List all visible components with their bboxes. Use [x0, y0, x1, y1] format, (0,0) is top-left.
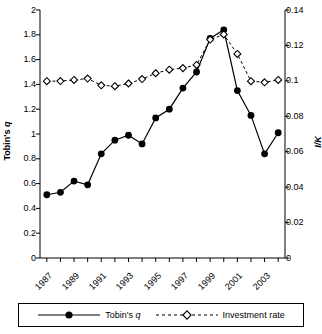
data-point: [125, 80, 132, 87]
data-point: [43, 191, 50, 198]
data-point: [248, 112, 255, 119]
data-point: [247, 78, 254, 85]
data-point: [57, 78, 64, 85]
data-point: [125, 132, 132, 139]
data-point: [166, 66, 173, 73]
legend-label-investment-rate: Investment rate: [223, 310, 285, 320]
data-point: [261, 150, 268, 157]
data-point: [234, 50, 241, 57]
data-point: [84, 181, 91, 188]
data-point: [139, 76, 146, 83]
data-point: [275, 129, 282, 136]
data-point: [179, 65, 186, 72]
data-point: [71, 76, 78, 83]
plot-area: [0, 0, 322, 334]
data-point: [275, 76, 282, 83]
data-point: [166, 106, 173, 113]
data-point: [180, 85, 187, 92]
chart-legend: Tobin's q Investment rate: [18, 303, 304, 327]
data-point: [193, 69, 200, 76]
data-point: [111, 137, 118, 144]
data-point: [43, 78, 50, 85]
data-point: [261, 79, 268, 86]
data-point: [84, 75, 91, 82]
series-line-investment-rate: [47, 34, 278, 86]
chart-figure: Tobin's q I/K 00.20.40.60.811.21.41.61.8…: [0, 0, 322, 334]
legend-item-investment-rate: Investment rate: [155, 309, 285, 321]
data-point: [234, 87, 241, 94]
data-point: [71, 178, 78, 185]
legend-marker-open-diamond: [155, 309, 219, 321]
legend-item-tobins-q: Tobin's q: [37, 309, 140, 321]
data-point: [152, 70, 159, 77]
legend-marker-filled-circle: [37, 309, 101, 321]
series-line-tobins-q: [47, 30, 278, 195]
data-point: [57, 189, 64, 196]
data-point: [98, 82, 105, 89]
legend-label-tobins-q: Tobin's q: [105, 310, 140, 320]
data-point: [98, 150, 105, 157]
data-point: [139, 141, 146, 148]
data-point: [111, 83, 118, 90]
data-point: [152, 114, 159, 121]
